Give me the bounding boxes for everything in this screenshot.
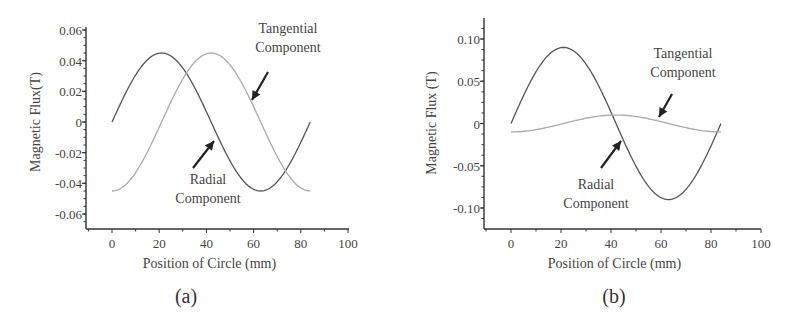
x-tick-label: 40 xyxy=(200,236,213,251)
x-tick-label: 60 xyxy=(655,236,668,251)
chart-b: 0204060801000.100.050-0.05-0.10Position … xyxy=(424,18,771,308)
y-tick-label: 0.06 xyxy=(59,23,82,38)
x-tick-label: 0 xyxy=(508,236,515,251)
x-axis-title: Position of Circle (mm) xyxy=(548,256,682,272)
x-tick-label: 0 xyxy=(109,236,116,251)
y-tick-label: -0.04 xyxy=(55,176,83,191)
annotation-label: Component xyxy=(175,191,240,206)
annotation-label: Component xyxy=(650,65,715,80)
figure-caption: (b) xyxy=(602,285,625,308)
figure-caption: (a) xyxy=(175,285,197,308)
y-tick-label: 0 xyxy=(76,115,83,130)
y-tick-label: -0.02 xyxy=(55,146,82,161)
y-tick-label: -0.10 xyxy=(453,201,480,216)
y-tick-label: -0.05 xyxy=(453,159,480,174)
y-axis-title: Magnetic Flux(T) xyxy=(28,72,44,172)
y-tick-label: 0.02 xyxy=(59,84,82,99)
x-axis-title: Position of Circle (mm) xyxy=(143,256,277,272)
chart-a: 0204060801000.060.040.020-0.02-0.04-0.06… xyxy=(28,21,358,308)
x-tick-label: 40 xyxy=(605,236,618,251)
annotation-label: Component xyxy=(563,196,628,211)
x-tick-label: 100 xyxy=(338,236,358,251)
annotation-label: Tangential xyxy=(259,21,318,36)
x-tick-label: 20 xyxy=(153,236,166,251)
radial-component-line xyxy=(112,53,310,191)
arrowhead-icon xyxy=(612,141,621,151)
x-tick-label: 60 xyxy=(247,236,260,251)
annotation-label: Tangential xyxy=(654,46,713,61)
annotation-label: Component xyxy=(255,40,320,55)
x-tick-label: 100 xyxy=(751,236,771,251)
y-tick-label: 0.04 xyxy=(59,54,82,69)
y-tick-label: -0.06 xyxy=(55,207,83,222)
figure: 0204060801000.060.040.020-0.02-0.04-0.06… xyxy=(0,0,798,327)
x-tick-label: 20 xyxy=(555,236,568,251)
x-tick-label: 80 xyxy=(705,236,718,251)
annotation-label: Radial xyxy=(578,177,615,192)
x-tick-label: 80 xyxy=(294,236,307,251)
y-tick-label: 0.10 xyxy=(457,32,480,47)
y-tick-label: 0.05 xyxy=(457,74,480,89)
annotation-label: Radial xyxy=(190,172,227,187)
y-axis-title: Magnetic Flux (T) xyxy=(424,71,440,175)
y-tick-label: 0 xyxy=(474,117,481,132)
